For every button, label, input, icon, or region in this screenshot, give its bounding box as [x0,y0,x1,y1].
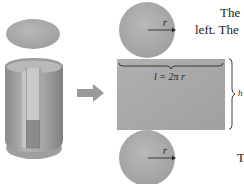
transform-arrow-icon [77,84,104,102]
height-label: h [238,89,243,98]
radius-label-top: r [163,18,167,28]
length-label: l = 2π r [154,72,185,82]
bottom-circle-face [119,130,176,184]
top-circle-face [119,2,176,58]
body-text-line-1: The [220,6,240,19]
lateral-surface-rectangle [117,59,225,130]
radius-label-bottom: r [163,146,167,156]
cylinder [5,58,63,159]
body-text-line-2: left. The [195,23,239,36]
height-brace [229,59,235,129]
body-text-line-3: T [237,151,244,164]
cylinder-lid [6,19,60,49]
